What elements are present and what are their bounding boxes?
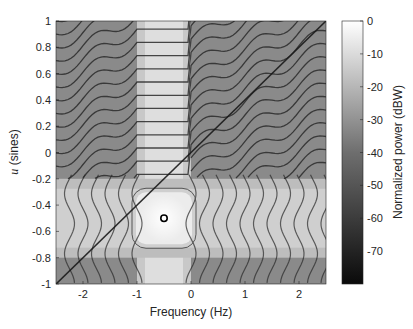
y-tick-label: 0.8	[36, 41, 51, 53]
colorbar: 0-10-20-30-40-50-60-70 Normalized power …	[342, 15, 405, 284]
x-tick-label: 2	[296, 288, 302, 300]
y-tick-label: -0.2	[32, 173, 51, 185]
y-tick-label: -1	[41, 278, 51, 290]
heatmap-plot-area	[56, 0, 331, 284]
y-tick-label: -0.6	[32, 225, 51, 237]
colorbar-tick-label: -30	[367, 114, 383, 126]
x-axis-label: Frequency (Hz)	[150, 305, 233, 319]
colorbar-gradient	[342, 21, 363, 284]
peak-marker	[161, 215, 167, 221]
colorbar-tick-label: -50	[367, 179, 383, 191]
y-tick-label: -0.4	[32, 199, 51, 211]
colorbar-tick-label: -10	[367, 48, 383, 60]
y-tick-label: -0.8	[32, 252, 51, 264]
x-tick-label: 1	[242, 288, 248, 300]
colorbar-label: Normalized power (dBW)	[391, 85, 405, 219]
colorbar-tick-label: -60	[367, 212, 383, 224]
y-axis-label: u (sines)	[7, 129, 21, 174]
colorbar-tick-label: -40	[367, 147, 383, 159]
y-tick-label: 0	[45, 147, 51, 159]
figure: -2-1012 10.80.60.40.20-0.2-0.4-0.6-0.8-1…	[0, 0, 413, 329]
x-tick-label: 0	[188, 288, 194, 300]
y-tick-label: 0.6	[36, 68, 51, 80]
y-axis-ticks: 10.80.60.40.20-0.2-0.4-0.6-0.8-1	[32, 15, 59, 290]
colorbar-tick-label: -70	[367, 245, 383, 257]
x-tick-label: -1	[132, 288, 142, 300]
colorbar-tick-label: -20	[367, 81, 383, 93]
y-tick-label: 1	[45, 15, 51, 27]
y-tick-label: 0.2	[36, 120, 51, 132]
colorbar-tick-label: 0	[367, 15, 373, 27]
x-tick-label: -2	[78, 288, 88, 300]
colorbar-ticks: 0-10-20-30-40-50-60-70	[360, 15, 383, 257]
y-tick-label: 0.4	[36, 94, 51, 106]
